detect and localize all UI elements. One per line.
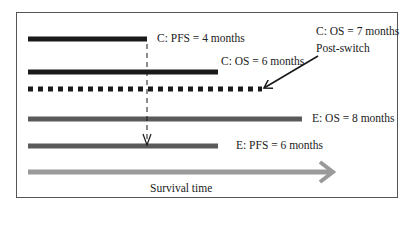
e-os-label: E: OS = 8 months (312, 113, 395, 125)
axis-label: Survival time (150, 183, 212, 195)
c-os-post-label: C: OS = 7 months (316, 26, 399, 38)
e-pfs-label: E: PFS = 6 months (236, 140, 323, 152)
post-switch-label: Post-switch (316, 43, 370, 55)
c-pfs-label: C: PFS = 4 months (157, 33, 245, 45)
c-os-label: C: OS = 6 months (221, 56, 304, 68)
